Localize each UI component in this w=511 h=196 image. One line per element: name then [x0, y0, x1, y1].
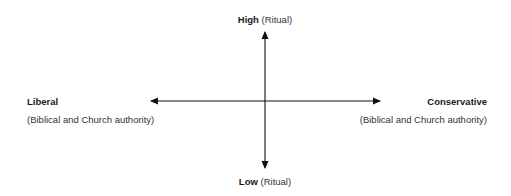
left-label: Liberal [27, 97, 58, 107]
left-subtitle: (Biblical and Church authority) [27, 115, 154, 125]
right-subtitle: (Biblical and Church authority) [360, 115, 487, 125]
bottom-label-qualifier: (Ritual) [261, 176, 292, 187]
right-label: Conservative [427, 97, 487, 107]
top-label: High (Ritual) [0, 15, 511, 25]
top-label-main: High [238, 14, 259, 25]
bottom-label: Low (Ritual) [0, 177, 511, 187]
bottom-label-main: Low [239, 176, 258, 187]
top-label-qualifier: (Ritual) [262, 14, 293, 25]
